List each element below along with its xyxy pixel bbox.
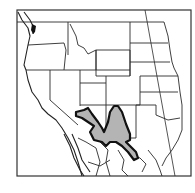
map-frame [17,10,191,176]
range-map [0,0,195,193]
